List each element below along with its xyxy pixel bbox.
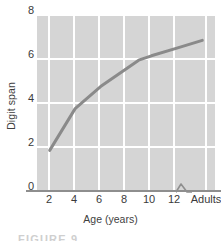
x-tick-12: 12 <box>168 193 180 205</box>
x-axis-label: Age (years) <box>0 213 221 225</box>
x-tick-adults: Adults <box>191 193 221 205</box>
data-series-line <box>37 14 215 190</box>
plot-area <box>37 14 215 190</box>
y-tick-4: 4 <box>4 92 34 104</box>
x-tick-10: 10 <box>143 193 155 205</box>
x-tick-8: 8 <box>121 193 127 205</box>
figure-root: Digit span 0 2 4 6 8 2 4 6 8 10 12 <box>0 0 221 241</box>
y-tick-8: 8 <box>4 4 34 16</box>
x-axis-tick-labels: 2 4 6 8 10 12 Adults <box>0 193 221 209</box>
axis-break-icon <box>176 183 192 193</box>
y-tick-6: 6 <box>4 48 34 60</box>
figure-caption: FIGURE 9 <box>18 233 78 241</box>
y-tick-2: 2 <box>4 136 34 148</box>
x-tick-4: 4 <box>71 193 77 205</box>
x-tick-2: 2 <box>46 193 52 205</box>
x-tick-6: 6 <box>96 193 102 205</box>
y-axis-tick-labels: 0 2 4 6 8 <box>2 14 34 190</box>
